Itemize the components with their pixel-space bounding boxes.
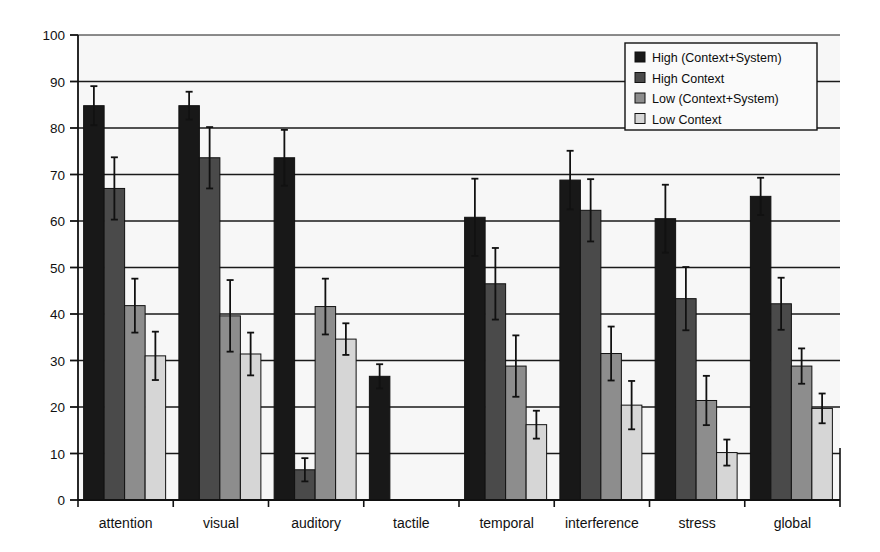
x-tick-label: tactile (393, 515, 430, 531)
bar (179, 106, 200, 500)
legend-swatch (635, 73, 645, 83)
legend-swatch (635, 114, 645, 124)
x-tick-label: stress (678, 515, 715, 531)
legend-item[interactable]: Low (Context+System) (635, 92, 779, 106)
y-tick-label: 40 (50, 307, 65, 322)
bar (771, 304, 792, 500)
bar (104, 188, 125, 500)
x-tick-label: temporal (479, 515, 533, 531)
bar (274, 158, 295, 500)
legend: High (Context+System)High ContextLow (Co… (625, 43, 817, 130)
y-tick-label: 70 (50, 168, 65, 183)
x-tick-label: global (774, 515, 811, 531)
y-tick-label: 0 (57, 493, 65, 508)
y-tick-label: 100 (42, 28, 65, 43)
x-tick-label: interference (565, 515, 639, 531)
legend-label: High Context (652, 72, 725, 86)
y-tick-label: 20 (50, 400, 65, 415)
y-tick-label: 80 (50, 121, 65, 136)
legend-swatch (635, 52, 645, 62)
bar (580, 210, 601, 500)
y-tick-label: 60 (50, 214, 65, 229)
bar (655, 219, 676, 500)
x-tick-label: attention (99, 515, 153, 531)
legend-swatch (635, 93, 645, 103)
legend-label: Low Context (652, 113, 722, 127)
legend-item[interactable]: High (Context+System) (635, 51, 782, 65)
legend-label: High (Context+System) (652, 51, 782, 65)
bar (125, 306, 146, 500)
y-tick-label: 10 (50, 447, 65, 462)
x-tick-label: auditory (291, 515, 341, 531)
x-tick-label: visual (203, 515, 239, 531)
y-tick-label: 50 (50, 261, 65, 276)
y-tick-label: 30 (50, 354, 65, 369)
legend-label: Low (Context+System) (652, 92, 779, 106)
bar (84, 106, 105, 500)
bar (465, 217, 486, 500)
bar (791, 366, 812, 500)
bar (560, 180, 581, 500)
x-axis-ticks: attentionvisualauditorytactiletemporalin… (78, 500, 840, 531)
chart-canvas: 1009080706050403020100 attentionvisualau… (0, 0, 880, 552)
bar (750, 196, 771, 500)
bar (199, 158, 220, 500)
bar (336, 339, 357, 500)
bar-chart: 1009080706050403020100 attentionvisualau… (0, 0, 880, 552)
y-tick-label: 90 (50, 75, 65, 90)
bar (315, 307, 336, 500)
bar (369, 376, 390, 500)
y-axis-ticks: 1009080706050403020100 (42, 28, 78, 508)
